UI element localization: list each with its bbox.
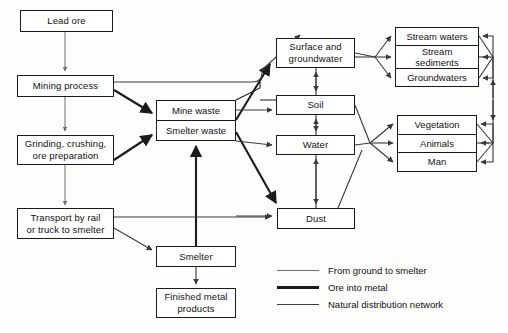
- node-soil[interactable]: Soil: [276, 95, 355, 115]
- node-mining-process[interactable]: Mining process: [17, 75, 114, 97]
- node-groundwaters-label: Groundwaters: [407, 72, 467, 83]
- node-dust[interactable]: Dust: [277, 208, 355, 229]
- node-dust-label: Dust: [306, 213, 326, 225]
- node-transport-line2: or truck to smelter: [27, 224, 105, 236]
- node-grinding-line2: ore preparation: [33, 150, 99, 162]
- node-mine-waste-label: Mine waste: [172, 105, 220, 116]
- node-mine-waste[interactable]: Mine waste: [157, 101, 235, 121]
- group-stream: Stream waters Stream sediments Groundwat…: [395, 27, 479, 87]
- node-mining-process-label: Mining process: [33, 80, 98, 92]
- node-stream-sediments-line2: sediments: [415, 57, 458, 68]
- edge-mining-to-surface-curve: [114, 35, 300, 82]
- node-finished-line2: products: [177, 303, 214, 315]
- legend-line-thick-icon: [277, 286, 319, 288]
- legend-label-ore-into-metal: Ore into metal: [328, 282, 388, 293]
- group-biota: Vegetation Animals Man: [397, 115, 477, 172]
- legend-label-ground-to-smelter: From ground to smelter: [328, 265, 427, 276]
- node-vegetation[interactable]: Vegetation: [398, 116, 476, 135]
- node-water[interactable]: Water: [276, 135, 355, 155]
- node-vegetation-label: Vegetation: [415, 119, 460, 130]
- node-finished-metal-products[interactable]: Finished metal products: [156, 288, 236, 318]
- node-man-label: Man: [428, 156, 446, 167]
- legend-label-natural-distribution: Natural distribution network: [328, 299, 443, 310]
- group-waste: Mine waste Smelter waste: [156, 100, 236, 141]
- legend-line-thin-icon: [277, 270, 319, 271]
- node-lead-ore[interactable]: Lead ore: [20, 10, 113, 32]
- diagram-canvas: Lead ore Mining process Grinding, crushi…: [0, 0, 508, 333]
- node-animals[interactable]: Animals: [398, 135, 476, 154]
- node-stream-waters-label: Stream waters: [406, 31, 467, 42]
- node-man[interactable]: Man: [398, 153, 476, 171]
- legend-item-ground-to-smelter: From ground to smelter: [277, 262, 443, 279]
- node-lead-ore-label: Lead ore: [47, 15, 85, 27]
- node-smelter-label: Smelter: [179, 251, 212, 263]
- node-smelter-waste-label: Smelter waste: [166, 125, 226, 136]
- legend-item-ore-into-metal: Ore into metal: [277, 279, 443, 296]
- node-surface-line2: groundwater: [289, 53, 343, 65]
- node-surface-groundwater[interactable]: Surface and groundwater: [276, 38, 355, 68]
- node-water-label: Water: [303, 139, 328, 151]
- node-smelter[interactable]: Smelter: [156, 246, 236, 267]
- node-transport[interactable]: Transport by rail or truck to smelter: [17, 208, 114, 239]
- node-smelter-waste[interactable]: Smelter waste: [157, 121, 235, 140]
- legend: From ground to smelter Ore into metal Na…: [277, 262, 443, 313]
- node-animals-label: Animals: [420, 138, 454, 149]
- legend-item-natural-distribution: Natural distribution network: [277, 296, 443, 313]
- node-groundwaters[interactable]: Groundwaters: [396, 69, 478, 86]
- node-grinding-line1: Grinding, crushing,: [25, 138, 107, 150]
- node-transport-line1: Transport by rail: [31, 212, 101, 224]
- legend-line-medium-icon: [277, 304, 319, 306]
- node-finished-line1: Finished metal: [164, 291, 227, 303]
- node-stream-sediments-line1: Stream: [422, 46, 453, 57]
- node-surface-line1: Surface and: [289, 41, 341, 53]
- node-soil-label: Soil: [307, 99, 323, 111]
- node-stream-sediments[interactable]: Stream sediments: [396, 46, 478, 70]
- edges-ore-into-metal: [114, 64, 276, 246]
- node-stream-waters[interactable]: Stream waters: [396, 28, 478, 46]
- node-grinding-crushing[interactable]: Grinding, crushing, ore preparation: [17, 135, 114, 165]
